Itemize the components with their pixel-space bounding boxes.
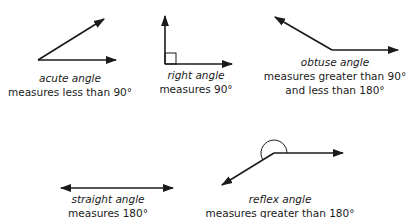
right-angle-label: right angle measures 90° (159, 68, 232, 96)
straight-angle-label: straight angle measures 180° (68, 192, 148, 218)
right-angle-drawing (165, 16, 232, 64)
acute-angle-label: acute angle measures less than 90° (8, 71, 132, 99)
reflex-angle-label: reflex angle measures greater than 180° (206, 192, 355, 218)
reflex-angle-drawing (222, 140, 343, 185)
angle-name: straight angle (68, 192, 148, 206)
angle-description: measures 90° (159, 82, 232, 96)
angle-description: and less than 180° (264, 83, 406, 97)
obtuse-angle-label: obtuse angle measures greater than 90° a… (264, 55, 406, 97)
acute-angle-drawing (38, 19, 116, 60)
angle-name: obtuse angle (264, 55, 406, 69)
angle-description: measures greater than 180° (206, 206, 355, 218)
angle-description: measures greater than 90° (264, 69, 406, 83)
angle-description: measures 180° (68, 206, 148, 218)
angle-drawings (0, 0, 416, 218)
angle-types-diagram: acute angle measures less than 90° right… (0, 0, 416, 218)
angle-description: measures less than 90° (8, 85, 132, 99)
angle-name: reflex angle (206, 192, 355, 206)
angle-name: right angle (159, 68, 232, 82)
angle-name: acute angle (8, 71, 132, 85)
obtuse-angle-drawing (275, 17, 398, 50)
